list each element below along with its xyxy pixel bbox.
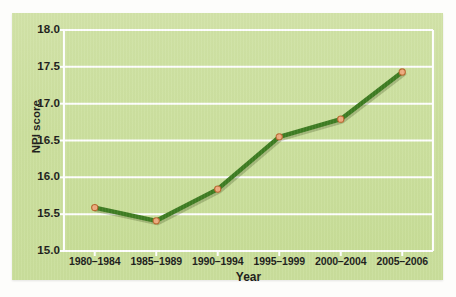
line-series bbox=[95, 72, 404, 223]
y-axis-title: NPI score bbox=[31, 82, 43, 172]
x-axis-tick-label: 1995–1999 bbox=[253, 256, 305, 267]
chart-card: 15.015.516.016.517.017.518.0 NPI score 1… bbox=[12, 13, 443, 280]
y-axis-tick-label: 17.5 bbox=[16, 61, 60, 73]
data-point-markers bbox=[92, 69, 406, 224]
data-point-marker bbox=[153, 218, 159, 224]
y-axis-tick-label: 18.0 bbox=[16, 24, 60, 36]
y-axis-tick-label: 16.0 bbox=[16, 172, 60, 184]
x-axis-tick-label: 1980–1984 bbox=[69, 256, 121, 267]
y-axis-tick-label: 15.0 bbox=[16, 245, 60, 257]
plot-area bbox=[64, 30, 433, 251]
data-point-marker bbox=[215, 186, 221, 192]
plot-svg bbox=[64, 30, 433, 251]
x-axis-tick-label: 2005–2006 bbox=[376, 256, 428, 267]
x-axis-tick-label: 1990–1994 bbox=[192, 256, 244, 267]
x-axis-tick-label: 2000–2004 bbox=[315, 256, 367, 267]
x-axis-title: Year bbox=[64, 271, 433, 283]
x-axis-tick-label: 1985–1989 bbox=[130, 256, 182, 267]
line-shadow bbox=[96, 74, 404, 223]
gridlines bbox=[60, 30, 433, 256]
data-point-marker bbox=[338, 116, 344, 122]
y-axis-tick-label: 15.5 bbox=[16, 208, 60, 220]
chart-figure: 15.015.516.016.517.017.518.0 NPI score 1… bbox=[0, 0, 456, 297]
data-line bbox=[95, 72, 403, 221]
data-point-marker bbox=[276, 134, 282, 140]
data-point-marker bbox=[92, 204, 98, 210]
data-point-marker bbox=[399, 69, 405, 75]
